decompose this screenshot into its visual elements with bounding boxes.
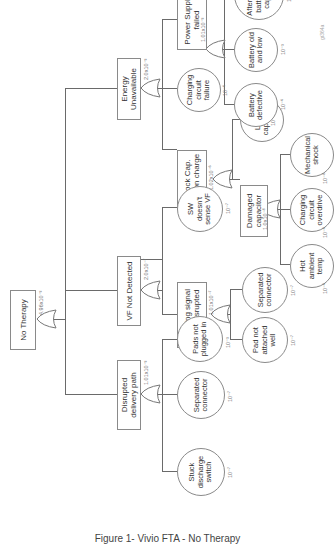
connector-line [280, 154, 290, 155]
connector-line [162, 207, 177, 208]
connector-line [162, 88, 177, 89]
figure-caption: Figure 1- Vivio FTA - No Therapy [0, 533, 335, 544]
basic-event-pad-not-attached: Pad not attached well [242, 317, 288, 363]
basic-event-separated-connector: Separated connector [177, 371, 225, 419]
event-label: Damaged capacitor [245, 188, 263, 234]
event-energy-unavailable: Energy Unavailable [117, 58, 141, 120]
event-label: After-market battery,low capacity [246, 0, 272, 16]
connector-line [280, 264, 290, 265]
spacer [177, 364, 183, 370]
basic-event-charging-circuit-failure: Charging circuit failure [177, 68, 221, 112]
event-label: Pads not plugged in [192, 320, 209, 358]
probability-label: 10⁻⁷ [227, 391, 233, 402]
connector-line [162, 20, 163, 150]
probability-label: 1.01x10⁻³ [200, 18, 206, 42]
basic-event-battery-defective: Battery defective [234, 83, 278, 127]
probability-label: 10⁻⁷ [290, 335, 296, 346]
basic-event-hot-ambient-temp: Hot ambient temp [290, 244, 334, 288]
connector-line [162, 394, 177, 395]
event-label: Battery defective [248, 87, 265, 123]
probability-label: 10⁻⁸ [322, 173, 328, 184]
event-label: Stuck discharge switch [188, 452, 214, 492]
probability-label: 10⁻⁶ [280, 99, 286, 110]
connector-line [65, 290, 117, 291]
connector-line [162, 314, 177, 315]
probability-label: 2.0x10⁻⁷ [143, 258, 149, 280]
event-label: Disrupted delivery path [120, 363, 138, 427]
connector-line [65, 394, 117, 395]
figure-id-label: gt364a [319, 25, 325, 40]
event-label: VF Not Detected [125, 261, 134, 320]
event-label: Mechanical shock [304, 136, 321, 174]
probability-label: 10⁻³ [225, 337, 231, 348]
spacer [177, 356, 183, 362]
probability-label: 10⁻³ [280, 44, 286, 55]
event-label: Separated connector [193, 375, 210, 415]
event-label: Battery old and low [248, 32, 265, 68]
basic-event-charging-overdrive: Charging circuit overdrive [290, 188, 334, 232]
connector-line [162, 339, 177, 340]
or-gate-icon [140, 383, 162, 405]
probability-label: 1.02x10⁻⁶ [208, 165, 214, 190]
basic-event-sw-not-sense-vf: SW doesn't sense VF [177, 186, 223, 232]
or-gate-icon [140, 77, 162, 99]
probability-label: 4.96x10⁻³ [38, 291, 44, 315]
probability-label: 10⁻⁶ [222, 85, 228, 96]
event-disrupted-delivery: Disrupted delivery path [117, 360, 141, 430]
probability-label: 10⁻⁶ [322, 283, 328, 294]
probability-label: 10⁻⁶ [286, 0, 292, 2]
probability-label: 10⁻⁷ [290, 285, 296, 296]
event-label: Charging circuit overdrive [299, 192, 325, 228]
connector-line [65, 89, 66, 395]
event-label: Charging circuit failure [186, 72, 212, 108]
connector-line [224, 104, 234, 105]
event-label: Hot ambient temp [299, 248, 325, 284]
basic-event-separated-connector-2: Separated connector [242, 267, 288, 313]
probability-label: 10⁻⁷ [225, 203, 231, 214]
basic-event-aftermarket-battery: After-market battery,low capacity [234, 0, 284, 20]
probability-label: 2.0x10⁻³ [143, 59, 149, 80]
probability-label: 1.0x10⁻⁸ [262, 208, 268, 230]
connector-line [162, 207, 163, 315]
connector-line [162, 19, 177, 20]
event-label: Pad not attached well [252, 321, 278, 359]
basic-event-pads-not-plugged: Pads not plugged in [177, 316, 223, 362]
connector-line [162, 340, 163, 472]
fault-tree-figure: No Therapy 4.96x10⁻³ Disrupted delivery … [0, 0, 335, 548]
event-label: Energy Unavailable [120, 61, 138, 117]
event-vf-not-detected: VF Not Detected [117, 256, 141, 326]
connector-line [162, 149, 177, 150]
or-gate-icon [140, 279, 162, 301]
event-no-therapy: No Therapy [10, 290, 36, 350]
event-label: Separated connector [257, 271, 274, 309]
event-label: SW doesn't sense VF [187, 190, 213, 228]
connector-line [230, 339, 242, 340]
or-gate-icon [205, 38, 227, 60]
connector-line [162, 471, 177, 472]
fault-tree-canvas: No Therapy 4.96x10⁻³ Disrupted delivery … [0, 0, 335, 520]
event-label: Power Supply failed [183, 0, 201, 47]
connector-line [65, 88, 117, 89]
probability-label: 10⁻⁶ [322, 227, 328, 238]
or-gate-icon [212, 168, 234, 190]
connector-line [230, 289, 242, 290]
probability-label: 10⁻⁷ [227, 467, 233, 478]
basic-event-mechanical-shock: Mechanical shock [290, 133, 334, 177]
event-label: No Therapy [19, 299, 28, 341]
basic-event-battery-old-low: Battery old and low [234, 28, 278, 72]
probability-label: 1.01x10⁻³ [143, 361, 149, 385]
probability-label: 1.01x10⁻⁷ [208, 290, 214, 315]
basic-event-stuck-switch: Stuck discharge switch [177, 448, 225, 496]
